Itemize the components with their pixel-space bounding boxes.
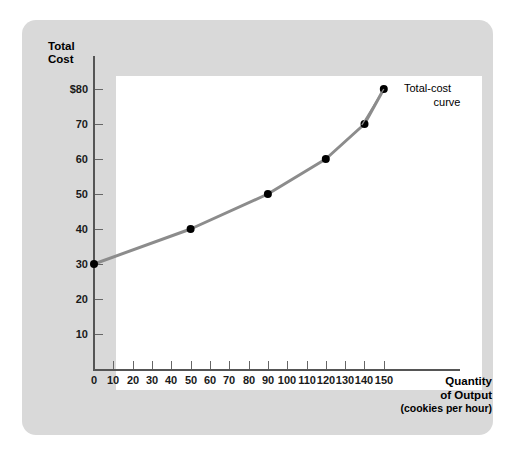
chart-figure: Total Cost Quantity of Output (cookies p… <box>0 0 513 456</box>
data-point-120-60 <box>322 155 330 163</box>
annotation-leader-line <box>362 89 384 125</box>
series-annotation: Total-cost curve <box>404 81 490 109</box>
data-point-markers <box>90 85 388 268</box>
curve-layer <box>0 0 513 456</box>
data-point-0-30 <box>90 260 98 268</box>
total-cost-curve <box>94 89 384 264</box>
series-annotation-line2: curve <box>404 95 490 109</box>
data-point-50-40 <box>187 225 195 233</box>
series-annotation-line1: Total-cost <box>404 81 490 95</box>
data-point-90-50 <box>264 190 272 198</box>
